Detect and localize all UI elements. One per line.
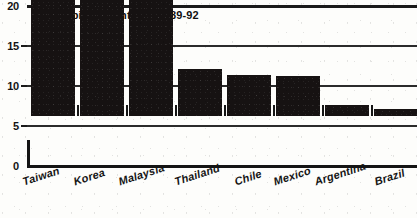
bar-chart-figure: 20 15 10 5 0 Developing Countries: 1989-… bbox=[0, 0, 417, 218]
bar-korea bbox=[80, 0, 124, 116]
y-tick-label-5: 5 bbox=[13, 121, 19, 132]
y-tick-label-20: 20 bbox=[7, 1, 19, 12]
y-tick-label-10: 10 bbox=[7, 81, 19, 92]
x-label-korea: Korea bbox=[72, 166, 106, 187]
bar-brazil bbox=[374, 109, 417, 116]
bar-taiwan bbox=[31, 0, 75, 116]
x-tickmark-4 bbox=[224, 105, 226, 116]
x-tickmark-7 bbox=[371, 105, 373, 116]
x-tickmark-3 bbox=[175, 105, 177, 116]
x-tickmark-5 bbox=[273, 105, 275, 116]
x-tickmark-1 bbox=[77, 105, 79, 116]
x-axis-labels: Taiwan Korea Malaysia Thailand Chile Mex… bbox=[0, 168, 417, 218]
x-tickmark-2 bbox=[126, 105, 128, 116]
bar-argentina bbox=[325, 105, 369, 116]
plot-area bbox=[27, 0, 417, 168]
x-label-taiwan: Taiwan bbox=[21, 164, 61, 187]
x-label-chile: Chile bbox=[233, 167, 263, 187]
x-tickmark-6 bbox=[322, 105, 324, 116]
bar-mexico bbox=[276, 76, 320, 116]
bar-chile bbox=[227, 75, 271, 116]
bar-thailand bbox=[178, 69, 222, 116]
x-label-brazil: Brazil bbox=[373, 166, 406, 187]
x-label-mexico: Mexico bbox=[272, 164, 312, 187]
y-tick-label-15: 15 bbox=[7, 41, 19, 52]
bar-malaysia bbox=[129, 0, 173, 116]
y-axis-line bbox=[27, 140, 30, 168]
